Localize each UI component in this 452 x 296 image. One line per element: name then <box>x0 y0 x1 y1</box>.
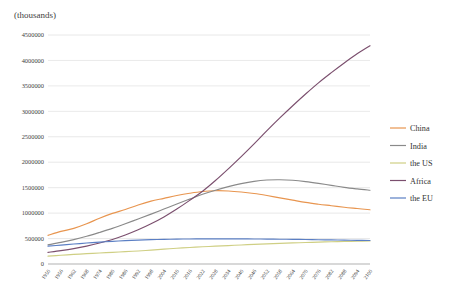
x-tick-label: 2088 <box>336 268 347 281</box>
x-tick-label: 2052 <box>259 268 270 281</box>
x-tick-label: 2016 <box>182 268 193 281</box>
x-tick-label: 2076 <box>311 268 322 281</box>
x-tick-label: 2010 <box>169 268 180 281</box>
x-tick-label: 1974 <box>92 268 103 281</box>
y-tick-label: 3000000 <box>22 108 44 115</box>
x-tick-label: 2094 <box>349 268 360 281</box>
x-tick-label: 1956 <box>53 268 64 281</box>
legend-label-the-eu: the EU <box>410 194 433 203</box>
x-tick-label: 2082 <box>324 268 335 281</box>
x-tick-label: 2028 <box>208 268 219 281</box>
x-tick-label: 2058 <box>272 268 283 281</box>
x-axis-tick-labels: 1950195619621968197419801986199219982004… <box>40 268 373 281</box>
y-tick-label: 2000000 <box>22 158 44 165</box>
data-series-group <box>48 46 370 256</box>
x-tick-label: 2046 <box>246 268 257 281</box>
x-tick-label: 1980 <box>105 268 116 281</box>
x-tick-label: 2064 <box>285 268 296 281</box>
legend-label-india: India <box>410 142 427 151</box>
plot-area: 0500000100000015000002000000250000030000… <box>0 0 452 296</box>
legend-label-the-us: the US <box>410 159 433 168</box>
legend-label-africa: Africa <box>410 177 431 186</box>
x-tick-label: 1998 <box>143 268 154 281</box>
x-tick-label: 2040 <box>233 268 244 281</box>
x-tick-label: 2100 <box>362 268 373 281</box>
x-tick-label: 1962 <box>66 268 77 281</box>
x-tick-label: 1950 <box>40 268 51 281</box>
y-tick-label: 4500000 <box>22 31 44 38</box>
y-tick-label: 1500000 <box>22 184 44 191</box>
series-line-india <box>48 180 370 245</box>
y-tick-label: 0 <box>41 260 44 267</box>
x-tick-label: 2022 <box>195 268 206 281</box>
x-tick-label: 1986 <box>118 268 129 281</box>
y-tick-label: 3500000 <box>22 82 44 89</box>
population-projection-chart: (thousands) 0500000100000015000002000000… <box>0 0 452 296</box>
y-axis-tick-labels: 0500000100000015000002000000250000030000… <box>22 31 44 267</box>
line-chart-svg: 0500000100000015000002000000250000030000… <box>0 0 452 296</box>
y-tick-label: 2500000 <box>22 133 44 140</box>
x-tick-label: 2034 <box>221 268 232 281</box>
x-tick-label: 1992 <box>130 268 141 281</box>
legend-label-china: China <box>410 124 430 133</box>
x-tick-label: 2070 <box>298 268 309 281</box>
y-tick-label: 1000000 <box>22 209 44 216</box>
x-tick-label: 1968 <box>79 268 90 281</box>
y-tick-label: 500000 <box>25 235 44 242</box>
series-line-africa <box>48 46 370 253</box>
x-tick-label: 2004 <box>156 268 167 281</box>
y-tick-label: 4000000 <box>22 57 44 64</box>
gridlines <box>48 35 370 264</box>
chart-legend: ChinaIndiathe USAfricathe EU <box>390 124 433 203</box>
